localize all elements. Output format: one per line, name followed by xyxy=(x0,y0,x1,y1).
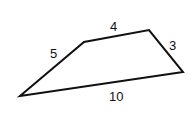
side-label-5: 5 xyxy=(50,46,57,61)
side-label-10: 10 xyxy=(109,89,123,104)
quadrilateral-diagram: 5 4 3 10 xyxy=(0,0,193,117)
side-label-3: 3 xyxy=(169,38,176,53)
quadrilateral-shape xyxy=(20,30,183,96)
side-label-4: 4 xyxy=(110,19,117,34)
